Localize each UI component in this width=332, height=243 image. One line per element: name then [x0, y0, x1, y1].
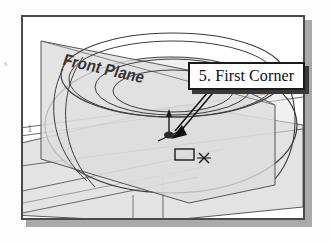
callout-box: 5. First Corner — [188, 62, 305, 90]
figure-root: s — [0, 0, 332, 243]
page-edge-artifact: s — [4, 58, 8, 68]
figure-frame: 1 Front Plane — [21, 15, 305, 220]
callout-label: 5. First Corner — [199, 67, 294, 85]
cad-scene — [23, 17, 303, 218]
